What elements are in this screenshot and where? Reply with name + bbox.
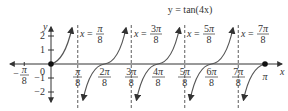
y-tick-1: 1: [40, 44, 45, 55]
x-axis-label: x: [279, 66, 285, 77]
svg-text:8: 8: [209, 77, 214, 88]
svg-text:5π: 5π: [204, 23, 215, 34]
svg-text:−: −: [13, 68, 19, 79]
svg-text:π: π: [262, 71, 268, 82]
y-tick-2: 2: [40, 30, 45, 41]
svg-text:4π: 4π: [153, 66, 164, 77]
svg-text:7π: 7π: [258, 23, 269, 34]
origin-point: [48, 61, 54, 67]
svg-text:2π: 2π: [99, 66, 110, 77]
svg-text:x =: x =: [186, 28, 200, 39]
svg-text:8: 8: [261, 34, 266, 45]
chart-title: y = tan(4x): [168, 4, 213, 16]
svg-text:8: 8: [102, 77, 107, 88]
tan-graph: y = tan(4x) x y 2 1 −1 −2 0 − π 8 π 8 2π…: [0, 0, 288, 111]
svg-text:3π: 3π: [151, 23, 162, 34]
svg-text:8: 8: [98, 34, 103, 45]
svg-text:8: 8: [22, 75, 27, 86]
asymptote-labels: x = π 8 x = 3π 8 x = 5π 8 x = 7π 8: [79, 23, 269, 45]
svg-text:π: π: [75, 66, 81, 77]
svg-text:x =: x =: [240, 28, 254, 39]
origin-label: 0: [40, 66, 45, 77]
svg-text:8: 8: [154, 34, 159, 45]
y-tick-neg2: −2: [34, 86, 45, 97]
svg-text:x =: x =: [133, 28, 147, 39]
svg-text:x =: x =: [79, 28, 93, 39]
svg-text:π: π: [97, 23, 103, 34]
svg-text:6π: 6π: [206, 66, 217, 77]
svg-text:7π: 7π: [233, 66, 244, 77]
svg-text:8: 8: [156, 77, 161, 88]
svg-text:3π: 3π: [126, 66, 137, 77]
pi-point: [262, 61, 268, 67]
svg-text:5π: 5π: [180, 66, 191, 77]
svg-text:8: 8: [207, 34, 212, 45]
svg-text:π: π: [22, 64, 28, 75]
